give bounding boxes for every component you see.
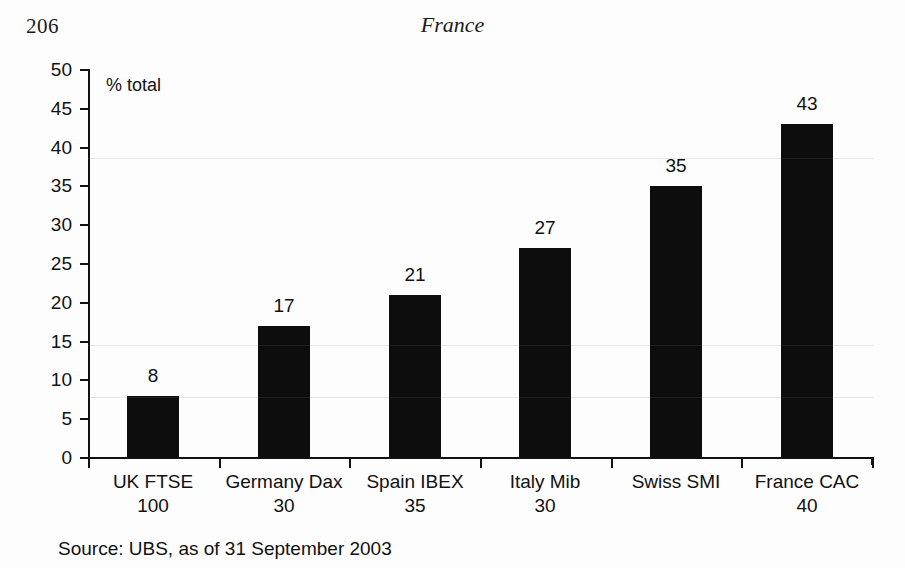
y-axis-tick-label: 45 [26, 99, 72, 118]
category-label-line1: France CAC [755, 471, 860, 492]
bar [519, 248, 571, 458]
category-label-line1: Italy Mib [510, 471, 581, 492]
source-note: Source: UBS, as of 31 September 2003 [58, 538, 392, 560]
y-axis-tick-label: 5 [26, 409, 72, 428]
y-axis-tick [80, 418, 88, 420]
bar [127, 396, 179, 458]
y-axis-tick [80, 108, 88, 110]
x-axis-category-label: Spain IBEX35 [345, 470, 485, 518]
y-axis-tick [80, 147, 88, 149]
category-label-line1: Spain IBEX [366, 471, 463, 492]
category-label-line1: Swiss SMI [632, 471, 721, 492]
bar-value-label: 43 [767, 94, 847, 113]
scan-artifact-line [88, 345, 874, 346]
bar-value-label: 21 [375, 265, 455, 284]
y-axis-tick-label: 10 [26, 370, 72, 389]
scan-artifact-line [88, 158, 874, 159]
y-axis-tick-label: 35 [26, 176, 72, 195]
x-axis-tick [349, 459, 351, 468]
x-axis-category-label: UK FTSE100 [83, 470, 223, 518]
x-axis-tick [741, 459, 743, 468]
y-axis-unit-label: % total [106, 76, 161, 94]
x-axis-tick [88, 459, 90, 468]
y-axis-tick-label: 0 [26, 448, 72, 467]
category-label-line2: 35 [345, 494, 485, 518]
y-axis-tick [80, 263, 88, 265]
y-axis-tick [80, 185, 88, 187]
bar-value-label: 17 [244, 296, 324, 315]
y-axis-tick-label: 20 [26, 293, 72, 312]
bar [781, 124, 833, 458]
y-axis-tick-label: 15 [26, 332, 72, 351]
bar [389, 295, 441, 458]
bar-value-label: 8 [113, 366, 193, 385]
bar-value-label: 27 [505, 218, 585, 237]
category-label-line2: 40 [737, 494, 877, 518]
category-label-line2: 100 [83, 494, 223, 518]
category-label-line2: 30 [214, 494, 354, 518]
category-label-line1: UK FTSE [113, 471, 193, 492]
bar [650, 186, 702, 458]
y-axis-tick [80, 224, 88, 226]
x-axis-tick [480, 459, 482, 468]
y-axis-tick [80, 379, 88, 381]
y-axis-tick-label: 25 [26, 254, 72, 273]
y-axis-tick-label: 40 [26, 138, 72, 157]
y-axis-tick [80, 457, 88, 459]
x-axis-category-label: Germany Dax30 [214, 470, 354, 518]
category-label-line2: 30 [475, 494, 615, 518]
scan-artifact-line [88, 397, 874, 398]
x-axis-tick [219, 459, 221, 468]
x-axis-category-label: Italy Mib30 [475, 470, 615, 518]
x-axis-category-label: France CAC40 [737, 470, 877, 518]
y-axis-tick [80, 302, 88, 304]
y-axis-tick [80, 341, 88, 343]
x-axis-category-label: Swiss SMI [606, 470, 746, 494]
y-axis-line [88, 69, 90, 459]
x-axis-tick [611, 459, 613, 468]
x-axis-tick [872, 459, 874, 468]
y-axis-tick [80, 69, 88, 71]
category-label-line1: Germany Dax [225, 471, 342, 492]
y-axis-tick-label: 30 [26, 215, 72, 234]
y-axis-tick-label: 50 [26, 60, 72, 79]
bar-chart: 05101520253035404550 8UK FTSE10017German… [0, 0, 905, 568]
